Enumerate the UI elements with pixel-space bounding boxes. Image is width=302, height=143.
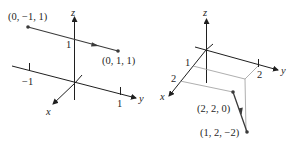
right-tick-x2-label: 2 [171, 73, 176, 84]
left-vector-arrowhead-icon [91, 42, 99, 46]
left-x-label: x [45, 106, 51, 117]
left-point-start [26, 25, 30, 29]
left-figure: z y x 1 −1 1 (0, −1, 1) (0, 1, 1) [8, 7, 144, 117]
left-vector [28, 27, 118, 51]
right-point-end-label: (1, 2, −2) [200, 127, 240, 139]
right-y-axis [195, 47, 278, 70]
right-z-label: z [202, 7, 207, 18]
right-figure: z y x 1 2 2 (2, 2, 0) (1, 2, −2) [159, 7, 286, 139]
left-x-axis-back [75, 75, 82, 83]
left-tick-z-label: 1 [66, 39, 71, 50]
right-point-start-label: (2, 2, 0) [197, 103, 231, 115]
left-tick-ypos-label: 1 [117, 98, 122, 109]
left-point-start-label: (0, −1, 1) [8, 11, 48, 23]
left-point-end-label: (0, 1, 1) [102, 55, 136, 67]
right-point-end [245, 130, 249, 134]
left-point-end [116, 49, 120, 53]
right-guide-x1 [193, 66, 245, 79]
right-tick-y2-label: 2 [257, 69, 262, 80]
right-guide-vertical [245, 79, 246, 131]
right-vector [233, 92, 247, 132]
left-tick-yneg-label: −1 [22, 76, 33, 87]
right-y-label: y [280, 65, 286, 76]
left-y-label: y [138, 93, 144, 104]
right-x-label: x [159, 91, 165, 102]
diagram-canvas: z y x 1 −1 1 (0, −1, 1) (0, 1, 1) z y x … [0, 0, 302, 143]
right-tick-x1-label: 1 [185, 57, 190, 68]
left-x-axis [53, 83, 75, 104]
right-x-axis-back [206, 44, 213, 50]
left-z-label: z [70, 7, 75, 18]
right-point-start [231, 90, 235, 94]
